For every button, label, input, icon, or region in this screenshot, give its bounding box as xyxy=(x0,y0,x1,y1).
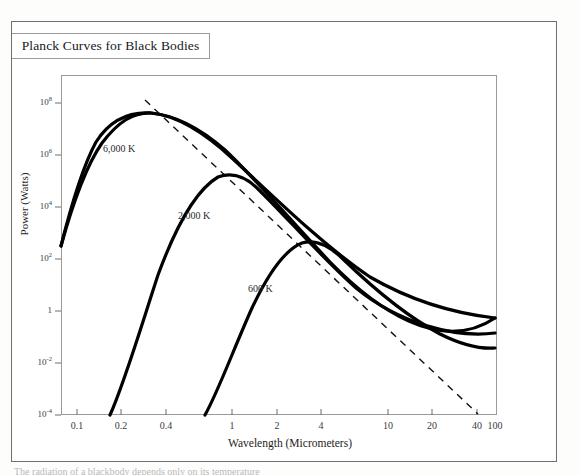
x-tick-label-4: 4 xyxy=(304,420,338,431)
figure-caption-partial: The radiation of a blackbody depends onl… xyxy=(14,466,554,475)
x-tick-label-10: 10 xyxy=(371,420,405,431)
y-tick-label-1e-2: 10-2 xyxy=(22,357,52,367)
x-tick-label-0-1: 0.1 xyxy=(60,420,94,431)
series-label-600k: 600 K xyxy=(248,283,273,294)
series-label-2000k: 2,000 K xyxy=(178,210,210,221)
y-axis-ticks xyxy=(55,103,61,415)
y-tick-label-1e8: 108 xyxy=(22,97,52,107)
x-axis-title: Wavelength (Micrometers) xyxy=(160,437,420,449)
x-axis-ticks xyxy=(77,409,477,415)
x-tick-label-20: 20 xyxy=(415,420,449,431)
series-label-6000k: 6,000 K xyxy=(103,143,135,154)
y-tick-label-1e-4: 10-4 xyxy=(22,409,52,419)
x-tick-label-0-2: 0.2 xyxy=(104,420,138,431)
y-axis-title: Power (Watts) xyxy=(18,144,30,264)
x-tick-label-0-4: 0.4 xyxy=(149,420,183,431)
x-tick-label-1: 1 xyxy=(215,420,249,431)
wien-displacement-line xyxy=(145,100,478,414)
x-tick-label-100: 100 xyxy=(460,420,530,431)
chart-canvas xyxy=(0,0,580,475)
x-tick-label-2: 2 xyxy=(260,420,294,431)
figure-root: Planck Curves for Black Bodies xyxy=(0,0,580,475)
y-tick-label-1: 1 xyxy=(22,305,52,315)
planck-curve-2000k xyxy=(110,175,495,415)
